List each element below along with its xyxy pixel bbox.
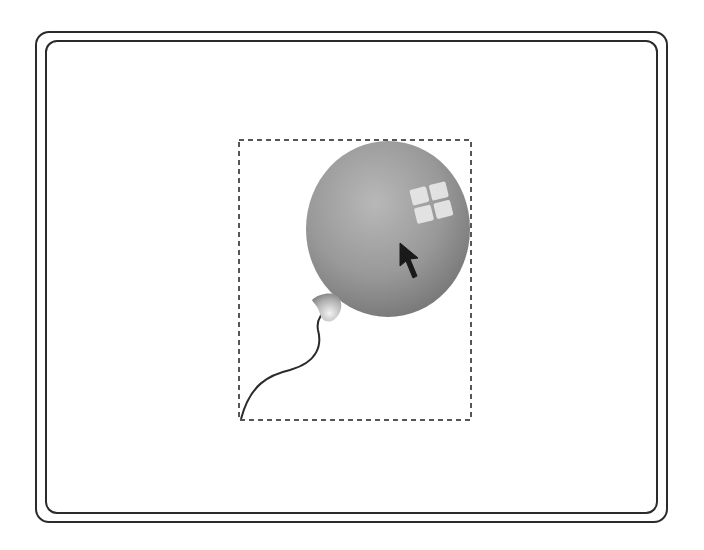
- balloon-body: [306, 141, 470, 317]
- balloon-knot: [312, 294, 341, 322]
- balloon-icon[interactable]: [241, 141, 470, 419]
- balloon-string: [241, 306, 330, 419]
- drawing-canvas[interactable]: [0, 0, 704, 550]
